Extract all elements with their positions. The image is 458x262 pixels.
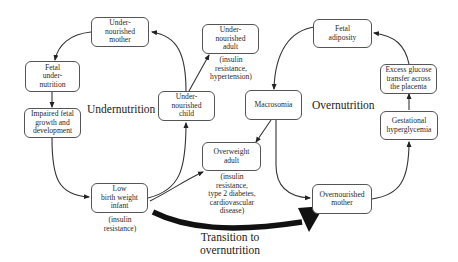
note-low-birth-weight-infant: (insulin resistance) (90, 216, 150, 233)
arrow-impaired-growth-to-low-birth-weight (52, 138, 89, 197)
node-undernourished-adult: Under- nourished adult (202, 24, 259, 54)
node-gestational-hyperglycemia: Gestational hyperglycemia (380, 111, 438, 140)
transition-label: Transition to overnutrition (200, 231, 260, 257)
arrow-fetal-adiposity-to-macrosomia (274, 27, 315, 89)
arrow-mother-to-fetal-undernutrition (55, 32, 91, 60)
arrow-glucose-transfer-to-fetal-adiposity (374, 33, 409, 64)
node-overweight-adult: Overweight adult (202, 142, 261, 171)
note-undernourished-adult: (insulin resistance, hypertension) (198, 56, 264, 82)
arrow-macrosomia-to-overweight-adult (256, 120, 271, 142)
node-impaired-fetal-growth: Impaired fetal growth and development (24, 108, 81, 138)
node-fetal-adiposity: Fetal adiposity (313, 19, 372, 48)
arrow-macrosomia-to-overnourished-mother (276, 120, 310, 198)
node-overnourished-mother: Overnourished mother (312, 184, 372, 214)
arrow-low-birth-weight-to-child (148, 123, 186, 198)
node-fetal-undernutrition: Fetal under- nutrition (25, 61, 80, 92)
section-label-undernutrition: Undernutrition (87, 103, 155, 115)
arrow-overnourished-mother-to-gestational-hyperglycemia (372, 142, 409, 199)
node-undernourished-child: Under- nourished child (158, 91, 215, 121)
note-overweight-adult: (insulin resistance, type 2 diabetes, ca… (198, 173, 266, 216)
node-low-birth-weight-infant: Low birth weight infant (91, 183, 148, 213)
nutrition-cycle-diagram: Under- nourished mother Fetal under- nut… (0, 0, 458, 262)
section-label-overnutrition: Overnutrition (312, 99, 375, 111)
node-excess-glucose-transfer: Excess glucose transfer across the place… (380, 64, 437, 94)
arrow-low-birth-weight-to-overweight-adult (150, 172, 203, 201)
node-undernourished-mother: Under- nourished mother (91, 17, 149, 47)
arrow-child-to-mother (152, 32, 186, 91)
node-macrosomia: Macrosomia (245, 90, 302, 120)
